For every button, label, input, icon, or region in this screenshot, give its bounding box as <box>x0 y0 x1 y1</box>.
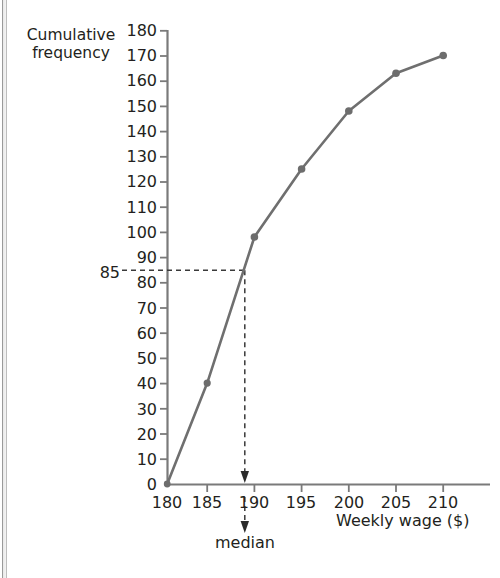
data-point <box>345 107 353 115</box>
y-tick-label-160: 160 <box>97 72 157 90</box>
y-tick-label-100: 100 <box>97 224 157 242</box>
y-tick-label-120: 120 <box>97 173 157 191</box>
y-tick-label-10: 10 <box>97 451 157 469</box>
y-axis-ticks <box>160 31 167 459</box>
y-tick-label-130: 130 <box>97 148 157 166</box>
y-tick-label-0: 0 <box>97 476 157 494</box>
data-point <box>298 165 306 173</box>
y-tick-label-170: 170 <box>97 47 157 65</box>
y-tick-label-30: 30 <box>97 401 157 419</box>
y-tick-label-180: 180 <box>97 22 157 40</box>
cumulative-frequency-line <box>167 56 443 485</box>
y-tick-label-20: 20 <box>97 426 157 444</box>
y-tick-label-40: 40 <box>97 375 157 393</box>
y-tick-label-60: 60 <box>97 325 157 343</box>
y-tick-label-140: 140 <box>97 123 157 141</box>
y-tick-label-70: 70 <box>97 300 157 318</box>
data-point <box>164 481 171 488</box>
chart-canvas <box>0 0 500 578</box>
data-point <box>204 380 211 387</box>
y-tick-label-150: 150 <box>97 98 157 116</box>
x-tick-label-210: 210 <box>413 494 473 512</box>
x-axis-title: Weekly wage ($) <box>336 512 496 530</box>
cumulative-frequency-chart: Cumulativefrequency 180 170 160 150 140 … <box>0 0 500 578</box>
y-tick-label-50: 50 <box>97 350 157 368</box>
data-point <box>392 69 400 77</box>
median-label: median <box>200 534 290 552</box>
data-point <box>439 52 447 60</box>
y-tick-label-110: 110 <box>97 199 157 217</box>
axes <box>166 30 490 485</box>
cf-85-label: 85 <box>80 264 120 282</box>
data-point <box>251 233 259 241</box>
